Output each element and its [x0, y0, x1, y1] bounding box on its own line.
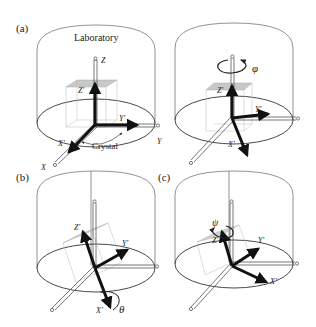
crystal-box	[66, 80, 117, 127]
psi-symbol: ψ	[212, 217, 219, 228]
panel-a: (a) Laboratory	[16, 22, 163, 172]
panel-phi: φ Z' Y' X'	[175, 23, 300, 165]
panel-a-tag: (a)	[16, 22, 29, 35]
theta-symbol: θ	[119, 303, 125, 315]
lab-z-label: Z	[101, 56, 106, 65]
crystal-x-label: X'	[269, 277, 277, 286]
crystal-z-label: Z'	[217, 86, 223, 95]
crystal-z-label: Z'	[212, 236, 218, 245]
euler-rotation-figure: (a) Laboratory	[0, 0, 316, 327]
crystal-y-label: Y'	[119, 114, 125, 123]
crystal-x-label: X'	[95, 306, 103, 315]
phi-rotation-arrow-icon	[218, 60, 246, 73]
panel-c: (c) ψ	[158, 171, 299, 311]
crystal-z-label: Z'	[78, 86, 84, 95]
panel-b-tag: (b)	[16, 171, 29, 184]
lab-axes	[189, 200, 298, 311]
crystal-y-label: Y'	[255, 105, 261, 114]
crystal-label: Crystal	[92, 141, 118, 151]
lab-y-label: Y	[157, 137, 163, 146]
crystal-box	[206, 83, 252, 131]
phi-symbol: φ	[252, 62, 258, 74]
laboratory-label: Laboratory	[74, 32, 118, 43]
crystal-x-label: X'	[57, 139, 65, 148]
crystal-x-label: X'	[227, 140, 235, 149]
crystal-box	[63, 223, 122, 282]
crystal-y-label: Y'	[258, 236, 264, 245]
lab-x-label: X	[40, 163, 47, 172]
panel-c-tag: (c)	[158, 171, 171, 184]
crystal-axes	[83, 232, 127, 307]
laboratory-cylinder	[175, 171, 293, 288]
crystal-z-label: Z'	[74, 223, 80, 232]
crystal-y-label: Y'	[122, 239, 128, 248]
panel-b: (b) Z'	[16, 171, 159, 315]
